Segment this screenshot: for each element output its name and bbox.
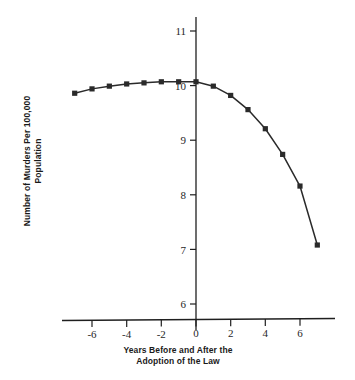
x-tick-label: 6 (297, 327, 303, 339)
data-point-marker (89, 86, 94, 91)
data-point-marker (141, 80, 146, 85)
x-tick-label: -2 (157, 328, 166, 340)
x-tick-label: 4 (263, 327, 269, 339)
data-point-marker (159, 79, 164, 84)
data-point-marker (297, 183, 302, 188)
data-point-marker (280, 152, 285, 157)
x-tick-label: -6 (87, 328, 97, 340)
line-chart-plot: 11 10 9 8 7 6 -6 -4 -2 0 2 4 6 (0, 0, 355, 380)
y-axis-label: Number of Murders Per 100,000 Population (22, 76, 44, 246)
x-tick-label: 2 (228, 327, 234, 339)
data-point-marker (245, 107, 250, 112)
y-tick-label: 7 (181, 244, 187, 256)
x-axis-label: Years Before and After the Adoption of t… (78, 345, 278, 367)
y-axis-label-line1: Number of Murders Per 100,000 (22, 96, 32, 226)
data-point-marker (211, 84, 216, 89)
y-tick-labels: 11 10 9 8 7 6 (175, 25, 187, 310)
data-point-marker (193, 79, 198, 84)
x-tick-labels: -6 -4 -2 0 2 4 6 (87, 327, 303, 340)
data-point-marker (107, 84, 112, 89)
y-tick-label: 11 (175, 25, 186, 37)
x-tick-label: -4 (122, 328, 132, 340)
y-tick-label: 6 (181, 298, 187, 310)
data-point-marker (315, 242, 320, 247)
y-axis-label-line2: Population (33, 139, 43, 184)
y-tick-label: 9 (181, 134, 187, 146)
y-tick-marks (190, 31, 196, 304)
data-point-marker (176, 79, 181, 84)
data-point-marker (124, 81, 129, 86)
x-tick-label: 0 (193, 327, 199, 339)
x-axis-line (62, 319, 335, 321)
data-point-marker (72, 91, 77, 96)
x-axis-label-container: Years Before and After the Adoption of t… (78, 345, 278, 367)
chart-figure: 11 10 9 8 7 6 -6 -4 -2 0 2 4 6 (0, 0, 355, 380)
x-axis-label-line1: Years Before and After the (123, 345, 232, 355)
y-axis-label-container: Number of Murders Per 100,000 Population (22, 76, 44, 246)
x-axis-label-line2: Adoption of the Law (136, 356, 220, 366)
data-point-marker (228, 93, 233, 98)
data-point-marker (263, 126, 268, 131)
y-tick-label: 8 (181, 189, 187, 201)
